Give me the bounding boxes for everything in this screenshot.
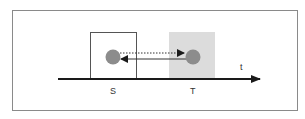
time-axis-label: t bbox=[240, 62, 243, 72]
diagram-canvas bbox=[0, 0, 305, 119]
target-node bbox=[186, 50, 201, 65]
source-node bbox=[106, 50, 121, 65]
source-label: S bbox=[110, 86, 116, 96]
target-label: T bbox=[190, 86, 196, 96]
